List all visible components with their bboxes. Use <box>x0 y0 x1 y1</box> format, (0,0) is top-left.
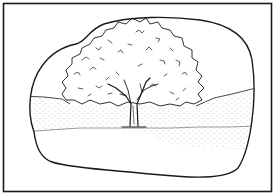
tree-crown <box>62 18 204 106</box>
illustration-canvas <box>0 0 276 196</box>
